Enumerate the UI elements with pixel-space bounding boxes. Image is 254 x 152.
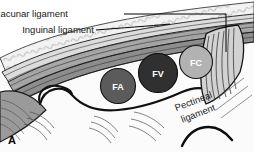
femoral-vein-label: FV bbox=[152, 69, 164, 79]
femoral-canal-label: FC bbox=[190, 58, 202, 68]
lacunar-ligament-label: Lacunar ligament bbox=[0, 8, 68, 19]
anatomical-figure-panel: FA FV FC Lacunar ligament Inguinal ligam… bbox=[0, 0, 254, 152]
inguinal-ligament-label: Inguinal ligament bbox=[22, 24, 94, 35]
femoral-artery-label: FA bbox=[112, 82, 124, 92]
illustration-canvas: FA FV FC Lacunar ligament Inguinal ligam… bbox=[0, 0, 254, 152]
panel-letter: A bbox=[8, 134, 16, 146]
